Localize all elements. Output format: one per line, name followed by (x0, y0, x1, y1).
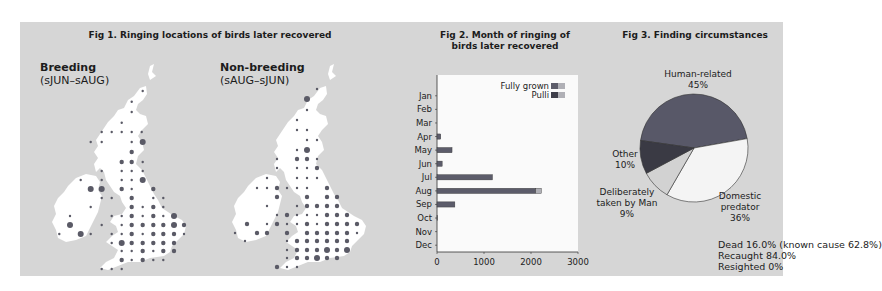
note-resighted: Resighted 0% (718, 261, 882, 272)
note-recaught: Recaught 84.0% (718, 250, 882, 261)
pie-label-domestic-predator: Domestic (719, 191, 761, 201)
pie-label-deliberately-taken: taken by Man (597, 198, 658, 208)
recovery-notes: Dead 16.0% (known cause 62.8%) Recaught … (718, 239, 882, 272)
pie-label-human-related: 45% (688, 80, 708, 90)
pie-label-domestic-predator: 36% (730, 213, 750, 223)
pie-label-other: Other (612, 149, 638, 159)
pie-label-domestic-predator: predator (721, 202, 760, 212)
pie-label-deliberately-taken: Deliberately (600, 187, 656, 197)
note-dead: Dead 16.0% (known cause 62.8%) (718, 239, 882, 250)
pie-label-other: 10% (615, 160, 635, 170)
pie-slice-human-related (641, 94, 748, 148)
pie-label-human-related: Human-related (664, 69, 732, 79)
pie-label-deliberately-taken: 9% (620, 209, 635, 219)
